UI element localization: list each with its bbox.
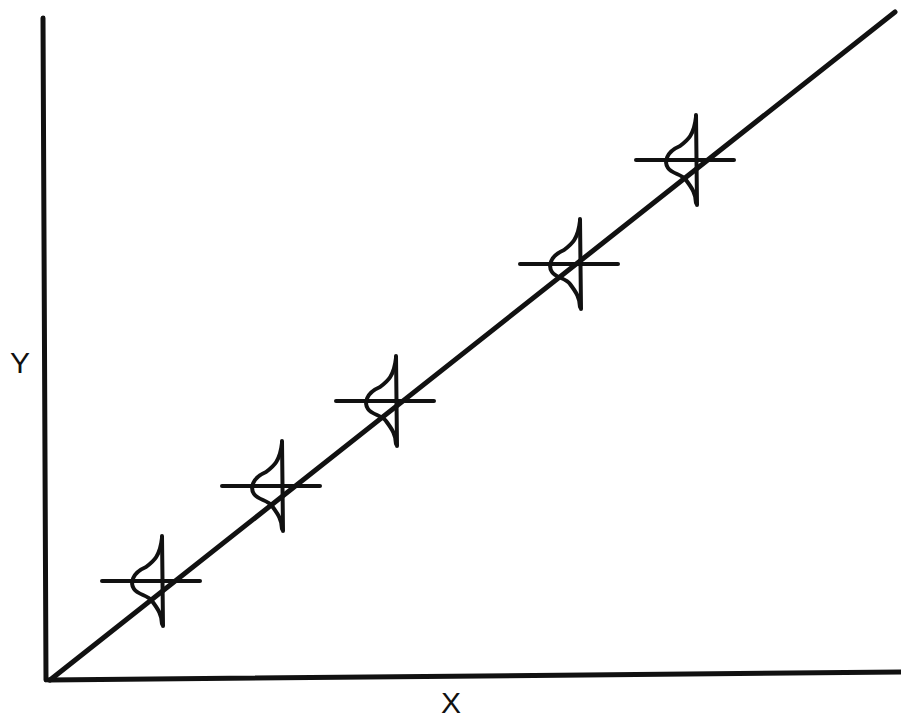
regression-diagram bbox=[0, 0, 901, 723]
x-axis-label: X bbox=[441, 688, 461, 718]
distribution-baseline bbox=[580, 219, 581, 309]
distribution-baseline bbox=[396, 356, 397, 446]
distribution-baseline bbox=[696, 115, 697, 205]
distribution-marker bbox=[102, 536, 200, 626]
distribution-baseline bbox=[162, 536, 163, 626]
y-axis-label: Y bbox=[10, 348, 30, 378]
distribution-marker bbox=[222, 441, 320, 531]
distribution-markers bbox=[102, 115, 734, 626]
y-axis bbox=[43, 18, 46, 680]
distribution-marker bbox=[636, 115, 734, 205]
distribution-marker bbox=[336, 356, 434, 446]
distribution-baseline bbox=[282, 441, 283, 531]
x-axis bbox=[48, 672, 901, 680]
